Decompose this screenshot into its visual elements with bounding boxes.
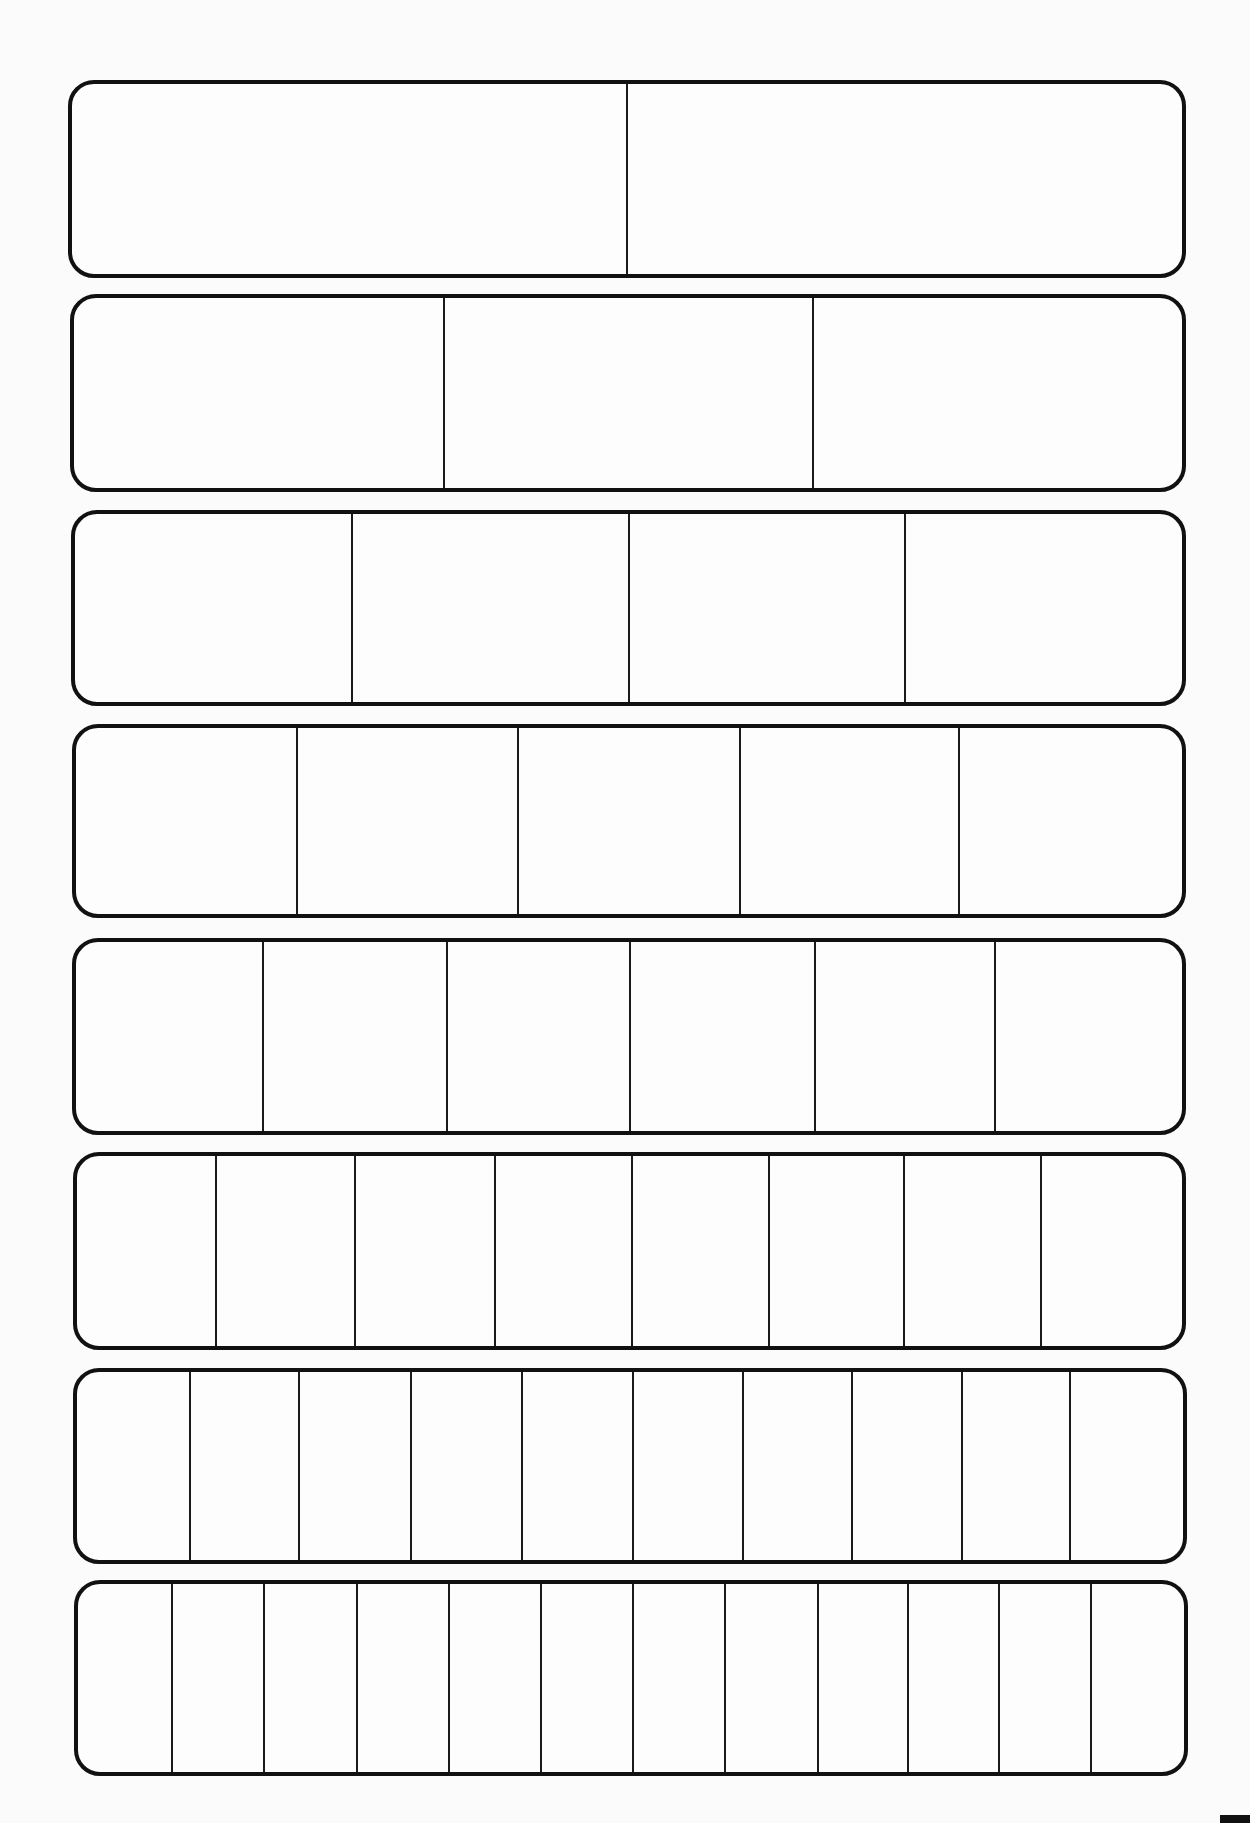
strip-divider: [632, 1372, 634, 1560]
strip-divider: [354, 1156, 356, 1346]
strip-divider: [768, 1156, 770, 1346]
strip-divider: [443, 298, 445, 488]
strip-divider: [631, 1156, 633, 1346]
strip-divider: [998, 1584, 1000, 1772]
strip-divider: [410, 1372, 412, 1560]
scan-artifact-mark: [1220, 1815, 1250, 1823]
fraction-strip-twelfths: [74, 1580, 1188, 1776]
strip-divider: [1090, 1584, 1092, 1772]
strip-divider: [1040, 1156, 1042, 1346]
strip-divider: [851, 1372, 853, 1560]
strip-divider: [494, 1156, 496, 1346]
strip-divider: [958, 728, 960, 914]
strip-divider: [903, 1156, 905, 1346]
fraction-strip-halves: [68, 80, 1186, 278]
strip-divider: [812, 298, 814, 488]
strip-divider: [263, 1584, 265, 1772]
strip-divider: [298, 1372, 300, 1560]
strip-divider: [632, 1584, 634, 1772]
strip-divider: [189, 1372, 191, 1560]
fraction-strip-sixths: [72, 938, 1186, 1135]
strip-divider: [351, 514, 353, 702]
strip-divider: [448, 1584, 450, 1772]
strip-divider: [739, 728, 741, 914]
strip-divider: [446, 942, 448, 1131]
fraction-strip-thirds: [70, 294, 1186, 492]
fraction-strip-fourths: [71, 510, 1186, 706]
strip-divider: [742, 1372, 744, 1560]
strip-divider: [994, 942, 996, 1131]
strip-divider: [521, 1372, 523, 1560]
strip-divider: [296, 728, 298, 914]
strip-divider: [540, 1584, 542, 1772]
fraction-strip-fifths: [72, 724, 1186, 918]
strip-divider: [628, 514, 630, 702]
strip-divider: [961, 1372, 963, 1560]
fraction-strip-tenths: [73, 1368, 1187, 1564]
strip-divider: [907, 1584, 909, 1772]
strip-divider: [904, 514, 906, 702]
strip-divider: [171, 1584, 173, 1772]
strip-divider: [626, 84, 628, 274]
strip-divider: [1069, 1372, 1071, 1560]
strip-divider: [817, 1584, 819, 1772]
strip-divider: [814, 942, 816, 1131]
strip-divider: [724, 1584, 726, 1772]
strip-divider: [215, 1156, 217, 1346]
strip-divider: [629, 942, 631, 1131]
fraction-strip-eighths: [73, 1152, 1186, 1350]
strip-divider: [517, 728, 519, 914]
strip-divider: [356, 1584, 358, 1772]
strip-divider: [262, 942, 264, 1131]
